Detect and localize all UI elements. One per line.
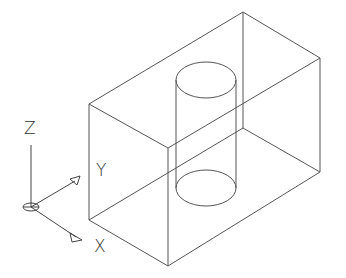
cylinder-bottom <box>176 170 236 206</box>
ucs-axis-icon <box>23 145 82 242</box>
box-top-face <box>89 12 320 148</box>
y-axis-line <box>31 181 75 207</box>
box-bottom-face <box>89 128 320 266</box>
y-axis-label: Y <box>96 160 106 180</box>
box-wireframe <box>89 12 320 266</box>
cylinder-wireframe <box>176 62 236 206</box>
z-axis-label: Z <box>24 118 36 138</box>
x-axis-label: X <box>94 236 106 256</box>
x-axis-arrow-icon <box>70 233 82 242</box>
y-axis-arrow-icon <box>70 176 80 185</box>
wireframe-drawing <box>0 0 346 278</box>
cylinder-top <box>176 62 236 98</box>
x-axis-line <box>31 207 76 237</box>
